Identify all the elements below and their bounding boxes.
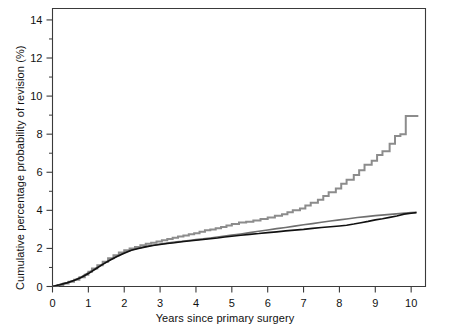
y-tick-label: 8 xyxy=(36,128,42,140)
y-tick-label: 14 xyxy=(30,14,42,26)
y-tick-label: 2 xyxy=(36,242,42,254)
x-tick-label: 3 xyxy=(157,297,163,309)
x-tick-label: 1 xyxy=(85,297,91,309)
data-series-group xyxy=(53,116,419,286)
x-tick-label: 2 xyxy=(121,297,127,309)
x-tick-label: 0 xyxy=(49,297,55,309)
x-axis-title: Years since primary surgery xyxy=(0,312,450,324)
x-tick-label: 8 xyxy=(336,297,342,309)
axis-ticks xyxy=(47,20,412,293)
x-tick-label: 6 xyxy=(265,297,271,309)
x-tick-label: 9 xyxy=(372,297,378,309)
y-tick-label: 0 xyxy=(36,281,42,293)
x-tick-label: 7 xyxy=(300,297,306,309)
chart-figure: 02468101214012345678910 Cumulative perce… xyxy=(0,0,450,332)
y-axis-title: Cumulative percentage probability of rev… xyxy=(14,45,26,290)
x-tick-label: 5 xyxy=(229,297,235,309)
y-tick-label: 6 xyxy=(36,166,42,178)
axis-tick-labels: 02468101214012345678910 xyxy=(30,14,417,309)
survival-curve-plot: 02468101214012345678910 xyxy=(0,0,450,332)
y-tick-label: 10 xyxy=(30,90,42,102)
y-tick-label: 12 xyxy=(30,52,42,64)
plot-frame xyxy=(53,9,426,287)
x-tick-label: 4 xyxy=(193,297,199,309)
y-tick-label: 4 xyxy=(36,204,42,216)
x-tick-label: 10 xyxy=(405,297,417,309)
